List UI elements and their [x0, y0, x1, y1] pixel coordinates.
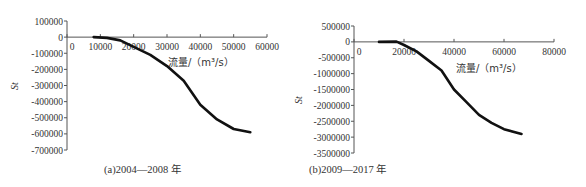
x-tick-label: 30000 — [155, 42, 179, 52]
chart-panel-b: 5000000-500000-1000000-1500000-2000000-2… — [290, 0, 586, 187]
x-axis-title: 流量/（m³/s） — [456, 62, 522, 74]
x-tick-label: 40000 — [442, 47, 466, 57]
chart-a-plot: 1000000-100000-200000-300000-400000-5000… — [0, 0, 290, 187]
chart-panel-a: 1000000-100000-200000-300000-400000-5000… — [0, 0, 290, 187]
y-tick-label: -100000 — [31, 49, 63, 59]
x-tick-label: 60000 — [492, 47, 516, 57]
x-tick-label: 50000 — [222, 42, 246, 52]
y-tick-label: -500000 — [31, 113, 63, 123]
x-tick-label: 40000 — [188, 42, 212, 52]
y-tick-label: -300000 — [31, 81, 63, 91]
x-tick-label: 80000 — [542, 47, 566, 57]
x-axis-title: 流量/（m³/s） — [168, 56, 234, 68]
x-tick-label: 0 — [357, 47, 362, 57]
y-tick-label: 500000 — [322, 22, 351, 32]
y-tick-label: -1500000 — [314, 85, 351, 95]
y-axis-title: St — [293, 96, 304, 104]
y-tick-label: 100000 — [35, 17, 64, 27]
chart-b-plot: 5000000-500000-1000000-1500000-2000000-2… — [290, 0, 586, 187]
y-axis-title: St — [9, 82, 20, 90]
y-tick-label: -400000 — [31, 97, 63, 107]
y-tick-label: -500000 — [318, 53, 350, 63]
y-tick-label: 0 — [58, 33, 63, 43]
y-tick-label: -3500000 — [314, 149, 351, 159]
y-tick-label: -3000000 — [314, 133, 351, 143]
y-tick-label: -2500000 — [314, 117, 351, 127]
x-tick-label: 60000 — [255, 42, 279, 52]
y-tick-label: 0 — [345, 37, 350, 47]
chart-b-caption: (b)2009—2017 年 — [309, 161, 386, 176]
y-tick-label: -700000 — [31, 146, 63, 156]
y-tick-label: -200000 — [31, 65, 63, 75]
chart-a-caption: (a)2004—2008 年 — [104, 161, 181, 176]
x-tick-label: 0 — [70, 42, 75, 52]
y-tick-label: -1000000 — [314, 69, 351, 79]
y-tick-label: -600000 — [31, 129, 63, 139]
y-tick-label: -2000000 — [314, 101, 351, 111]
x-tick-label: 10000 — [88, 42, 112, 52]
